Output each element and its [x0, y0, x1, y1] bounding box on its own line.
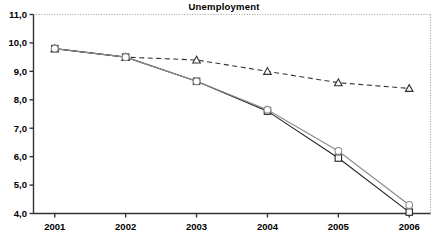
data-point-square — [406, 209, 412, 215]
y-tick-label: 11,0 — [9, 9, 27, 20]
data-point-circle — [122, 54, 129, 61]
y-axis-ticks: 11,010,09,08,07,06,05,04,0 — [9, 9, 34, 219]
chart-plot-area: 11,010,09,08,07,06,05,04,0 2001200220032… — [0, 0, 448, 240]
data-series — [52, 45, 413, 215]
series-line — [55, 49, 409, 205]
y-tick-label: 6,0 — [14, 151, 27, 162]
unemployment-chart: Unemployment 11,010,09,08,07,06,05,04,0 … — [0, 0, 448, 240]
data-point-circle — [406, 202, 413, 209]
data-point-circle — [193, 78, 200, 85]
data-series — [51, 45, 412, 208]
data-point-triangle — [264, 68, 272, 75]
data-point-circle — [264, 106, 271, 113]
axis-frame — [34, 15, 431, 214]
data-series — [51, 45, 413, 92]
y-tick-label: 5,0 — [14, 179, 27, 190]
data-point-circle — [335, 148, 342, 155]
y-tick-label: 9,0 — [14, 66, 27, 77]
data-point-triangle — [405, 85, 413, 92]
x-axis-ticks: 200120022003200420052006 — [44, 214, 420, 232]
y-tick-label: 10,0 — [9, 37, 28, 48]
x-tick-label: 2004 — [257, 221, 279, 232]
y-tick-label: 8,0 — [14, 94, 27, 105]
x-tick-label: 2003 — [186, 221, 207, 232]
y-tick-label: 4,0 — [14, 208, 27, 219]
data-series-group — [51, 45, 413, 215]
x-tick-label: 2005 — [328, 221, 350, 232]
x-tick-label: 2001 — [44, 221, 66, 232]
x-tick-label: 2006 — [399, 221, 420, 232]
series-line — [55, 49, 409, 212]
data-point-circle — [51, 45, 58, 52]
data-point-square — [335, 155, 341, 161]
y-tick-label: 7,0 — [14, 123, 27, 134]
x-tick-label: 2002 — [115, 221, 136, 232]
